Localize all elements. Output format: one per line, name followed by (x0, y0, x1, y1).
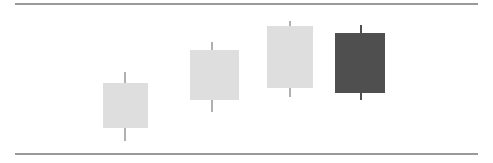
candle-2-wick (211, 42, 213, 112)
candle-4 (0, 0, 493, 163)
candle-1 (0, 0, 493, 163)
candle-3-wick (289, 21, 291, 97)
candle-1-body (103, 83, 148, 128)
candle-2-body (190, 50, 239, 100)
top-axis-rule (15, 3, 478, 5)
candle-3 (0, 0, 493, 163)
candlestick-chart (0, 0, 493, 163)
candle-3-body (267, 26, 313, 88)
candle-4-wick (360, 25, 362, 100)
bottom-axis-rule (15, 153, 478, 155)
candle-2 (0, 0, 493, 163)
candle-4-body (335, 33, 385, 93)
candle-1-wick (124, 72, 126, 141)
